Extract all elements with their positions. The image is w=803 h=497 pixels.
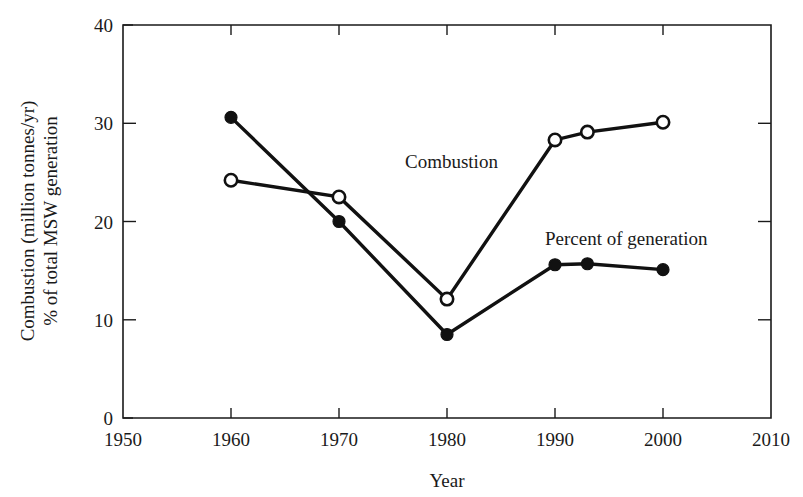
data-point [333,191,345,203]
chart-container: 0 10 20 30 40 1950 1960 1970 1980 1990 2… [0,0,803,497]
data-point [581,258,593,270]
data-point [225,111,237,123]
x-tick-label-1970: 1970 [320,429,358,450]
line-chart: 0 10 20 30 40 1950 1960 1970 1980 1990 2… [0,0,803,497]
data-point [581,126,593,138]
series-annotation-combustion: Combustion [405,151,498,172]
data-point [333,216,345,228]
y-tick-label-0: 0 [104,408,114,429]
y-tick-labels: 0 10 20 30 40 [94,15,113,429]
plot-frame [123,25,771,418]
data-point [657,264,669,276]
y-axis-title: Combustion (million tonnes/yr) % of tota… [17,101,61,342]
data-point [441,293,453,305]
x-tick-label-1980: 1980 [428,429,466,450]
data-point [549,259,561,271]
x-tick-label-2010: 2010 [752,429,790,450]
y-tick-label-40: 40 [94,15,113,36]
series-layer [225,111,669,340]
series-line-2 [231,122,663,299]
y-axis-title-line1: Combustion (million tonnes/yr) [17,101,39,342]
y-axis-title-line2: % of total MSW generation [40,116,61,326]
series-annotation-percent-of-generation: Percent of generation [545,228,708,249]
y-tick-label-30: 30 [94,113,113,134]
y-tick-label-20: 20 [94,212,113,233]
x-tick-label-1990: 1990 [536,429,574,450]
y-tick-label-10: 10 [94,310,113,331]
x-tick-label-1950: 1950 [104,429,142,450]
data-point [657,116,669,128]
x-axis-ticks [231,25,663,418]
x-tick-labels: 1950 1960 1970 1980 1990 2000 2010 [104,429,790,450]
y-axis-ticks [123,25,771,418]
x-tick-label-1960: 1960 [212,429,250,450]
data-point [549,134,561,146]
x-axis-title: Year [429,470,465,491]
x-tick-label-2000: 2000 [644,429,682,450]
data-point [441,328,453,340]
data-point [225,174,237,186]
